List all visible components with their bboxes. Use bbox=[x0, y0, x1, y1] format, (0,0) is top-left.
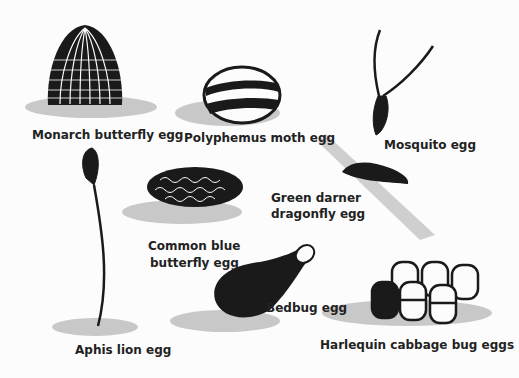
monarch-egg-icon bbox=[48, 25, 122, 105]
harlequin-eggs-icon bbox=[372, 262, 478, 323]
common-blue-egg-icon bbox=[147, 167, 243, 207]
label-bedbug: Bedbug egg bbox=[266, 301, 347, 316]
egg-drawings bbox=[0, 0, 519, 378]
label-green-darner-line2: dragonfly egg bbox=[271, 207, 365, 222]
label-polyphemus: Polyphemus moth egg bbox=[184, 131, 335, 146]
label-mosquito: Mosquito egg bbox=[384, 138, 476, 153]
label-common-blue-line2: butterfly egg bbox=[150, 256, 239, 271]
label-harlequin: Harlequin cabbage bug eggs bbox=[320, 338, 514, 353]
label-aphis-lion: Aphis lion egg bbox=[75, 343, 171, 358]
mosquito-egg-icon bbox=[373, 30, 433, 135]
label-monarch: Monarch butterfly egg bbox=[32, 128, 183, 143]
label-green-darner-line1: Green darner bbox=[271, 191, 361, 206]
aphis-lion-egg-icon bbox=[83, 148, 104, 326]
polyphemus-egg-icon bbox=[204, 67, 280, 123]
insect-eggs-illustration: Monarch butterfly egg Polyphemus moth eg… bbox=[0, 0, 519, 378]
label-common-blue-line1: Common blue bbox=[148, 239, 240, 254]
